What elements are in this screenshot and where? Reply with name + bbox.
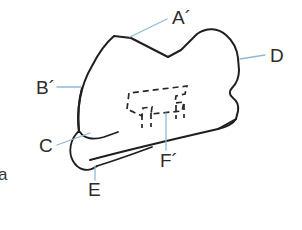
label-f-prime: F´ — [160, 150, 178, 171]
hidden-detail-outline — [127, 86, 187, 116]
leader-line-a-prime — [130, 19, 167, 37]
label-e: E — [88, 179, 101, 200]
label-d: D — [270, 45, 284, 66]
label-b-prime: B´ — [36, 77, 55, 98]
leader-line-d — [240, 55, 265, 59]
figure-caption-partial: a — [0, 165, 8, 184]
panel-diagram: A´ B´ C D E F´ a — [0, 0, 302, 230]
figure-container: A´ B´ C D E F´ a — [0, 0, 302, 230]
cuff-inner-curve — [80, 132, 118, 139]
leader-line-c — [57, 133, 90, 145]
panel-outline — [78, 29, 239, 132]
label-c: C — [39, 135, 53, 156]
label-a-prime: A´ — [172, 7, 191, 28]
